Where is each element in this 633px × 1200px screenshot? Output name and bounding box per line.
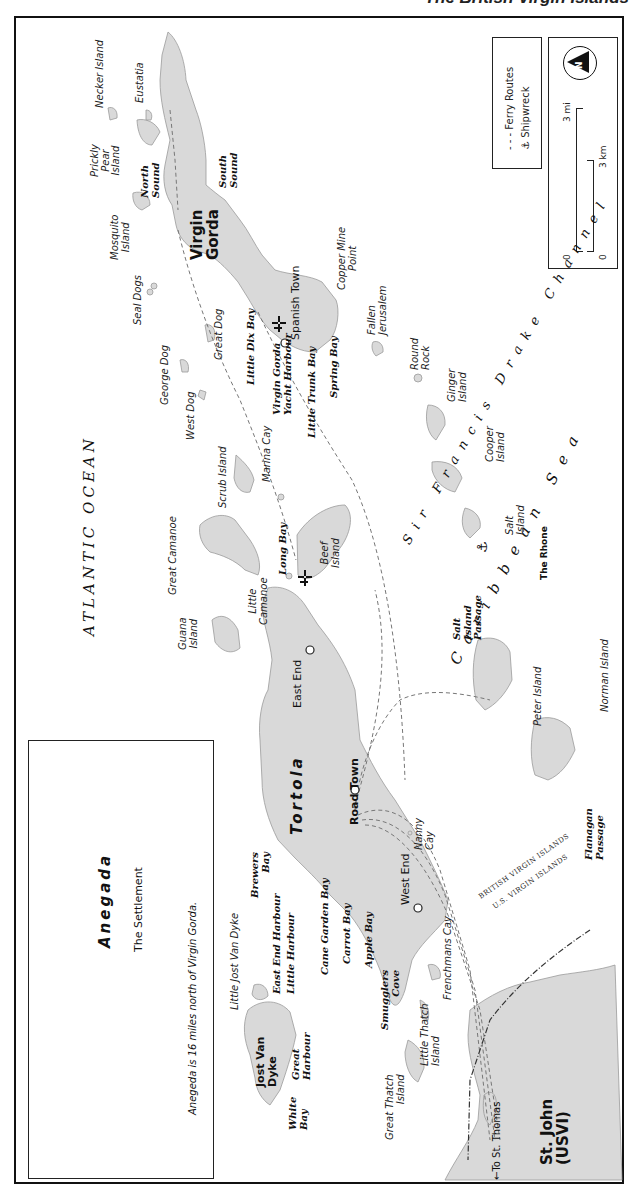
island-frenchmans-cay [428,964,440,980]
island-west-dog [198,390,206,400]
label-frenchmans-cay: Frenchmans Cay [443,916,454,1000]
label-atlantic-ocean: ATLANTIC OCEAN [82,435,98,636]
map-legend: - - - Ferry Routes ⚓ Shipwreck [492,37,542,169]
label-little-camanoe: LittleCamanoe [248,577,269,625]
island-round-rock [414,374,422,382]
label-guana-island: GuanaIsland [178,617,199,650]
island-scrub [234,455,254,492]
scale-miles-label: 3 mi [563,102,572,122]
label-marina-cay: Marina Cay [262,426,273,482]
label-st-john: St. John(USVI) [540,1099,572,1165]
label-west-dog: West Dog [186,391,197,440]
label-east-end: East End [292,660,304,708]
label-scrub-island: Scrub Island [218,446,229,508]
label-the-settlement: The Settlement [133,867,145,952]
label-brewers-bay: BrewersBay [250,852,271,898]
anchor-icon: ⚓ [520,138,531,150]
label-cane-garden-bay: Cane Garden Bay [320,878,331,975]
label-spring-bay: Spring Bay [329,336,340,398]
label-salt-island: SaltIsland [505,505,526,535]
ferry-dash-icon: - - - [504,130,515,150]
label-flanagan-passage: FlanaganPassage [584,808,605,860]
label-round-rock: RoundRock [410,338,431,370]
inset-note: Anegeda is 16 miles north of Virgin Gord… [188,902,199,1115]
label-great-harbour: GreatHarbour [291,1033,312,1080]
label-north-sound: NorthSound [140,163,161,198]
label-tortola: Tortola [290,755,306,835]
label-road-town: Road Town [349,758,361,825]
island-salt [462,508,480,538]
label-to-st-thomas: ←To St. Thomas [492,1102,503,1180]
label-smugglers-cove: SmugglersCove [380,970,401,1030]
scale-km-label: 3 km [599,145,608,168]
island-necker [108,107,117,120]
label-norman-island: Norman Island [600,639,611,712]
label-eustatia: Eustatia [135,62,146,103]
anchor-icon-rhone: ⚓ [474,540,490,553]
label-jost-van-dyke: Jost VanDyke [255,1037,278,1087]
label-great-camanoe: Great Camanoe [168,516,179,595]
island-fallen-jerusalem [372,341,383,356]
label-mosquito-island: MosquitoIsland [110,215,131,260]
label-little-jost-van-dyke: Little Jost Van Dyke [230,913,241,1010]
label-prickly-pear: PricklyPearIsland [90,144,122,177]
label-george-dog: George Dog [160,345,171,405]
town-marker-east-end [306,646,314,654]
island-marina-cay [278,494,284,500]
label-copper-mine-point: Copper MinePoint [337,227,358,290]
island-peter [473,638,512,710]
legend-ferry-routes: - - - Ferry Routes [505,67,516,150]
town-marker-west-end [414,904,422,912]
label-anegada: Anegada [98,853,114,948]
label-spanish-town: Spanish Town [290,266,302,340]
scale-zero-km: 0 [599,254,608,260]
island-seal-dogs-1 [147,289,153,295]
label-salt-island-passage: SaltIslandPassage [452,595,484,640]
island-virgin-gorda [160,32,338,352]
label-west-end: West End [400,854,412,905]
label-great-dog: Great Dog [214,309,225,360]
island-ginger [426,405,445,440]
island-little-jost [252,984,268,999]
label-carrot-bay: Carrot Bay [342,904,353,965]
label-little-trunk-bay: Little Trunk Bay [307,347,318,438]
label-peter-island: Peter Island [533,667,544,726]
label-fallen-jerusalem: FallenJerusalem [367,285,388,335]
label-little-dix-bay: Little Dix Bay [246,309,257,385]
label-vg-yacht-harbour: Virgin GordaYacht Harbour [272,333,293,415]
label-necker-island: Necker Island [95,40,106,108]
label-great-thatch: Great ThatchIsland [385,1074,406,1140]
label-little-thatch: Little ThatchIsland [420,1003,441,1066]
island-great-camanoe [199,515,259,575]
label-beef-island: BeefIsland [320,538,341,568]
island-prickly-pear [137,120,160,146]
island-seal-dogs-2 [151,283,157,289]
island-norman [531,718,575,780]
compass-north-label: N [575,61,584,69]
island-guana [212,616,240,651]
island-eustatia [146,110,152,120]
legend-shipwreck: ⚓ Shipwreck [521,87,532,150]
island-nanny-cay [408,831,412,835]
label-south-sound: SouthSound [218,153,239,188]
label-the-rhone: The Rhone [540,526,549,580]
island-george-dog [180,360,189,372]
label-long-bay: Long Bay [278,523,289,575]
label-cooper-island: CooperIsland [485,426,506,462]
label-ginger-island: GingerIsland [447,369,468,402]
label-apple-bay: Apple Bay [364,912,375,968]
label-east-end-harbour: East End Harbour [272,893,283,994]
label-white-bay: WhiteBay [288,1097,309,1130]
label-seal-dogs: Seal Dogs [133,275,144,325]
label-virgin-gorda: VirginGorda [190,209,222,260]
label-nanny-cay: NannyCay [414,818,435,850]
island-st-john [445,965,622,1180]
label-little-harbour: Little Harbour [286,913,297,994]
